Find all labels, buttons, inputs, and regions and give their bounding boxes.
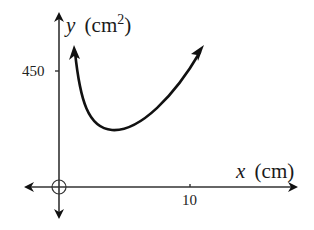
- x-tick-label: 10: [182, 192, 197, 208]
- y-tick-label: 450: [22, 63, 45, 79]
- x-axis-label: x (cm): [235, 159, 294, 183]
- data-curve: [75, 52, 200, 130]
- y-axis-label: y (cm2): [64, 12, 131, 37]
- chart: 450 10 y (cm2) x (cm): [0, 0, 314, 230]
